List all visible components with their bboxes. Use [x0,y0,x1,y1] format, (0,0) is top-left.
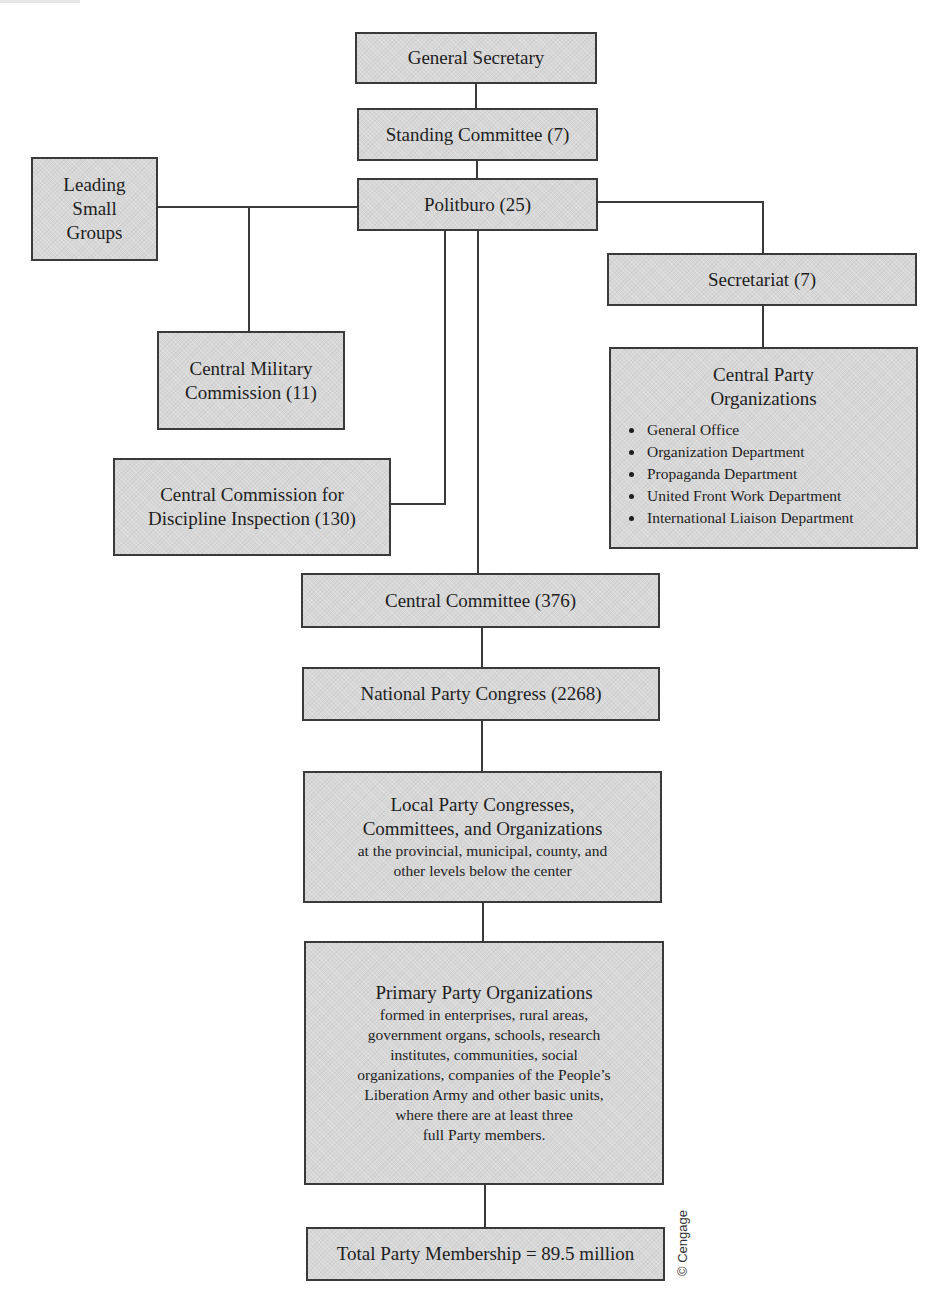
node-secretariat: Secretariat (7) [607,253,917,306]
node-label: Standing Committee (7) [386,123,570,147]
node-sublabel-line: organizations, companies of the People’s [357,1065,610,1085]
node-label-line: Central Party [713,363,814,387]
node-sublabel-line: Liberation Army and other basic units, [364,1085,603,1105]
node-total-membership: Total Party Membership = 89.5 million [306,1227,665,1281]
node-label-line: Committees, and Organizations [363,817,603,841]
node-label-line: Commission (11) [185,381,317,405]
department-item: Organization Department [627,441,854,463]
node-leading-small-groups: Leading Small Groups [31,157,158,261]
node-national-party-congress: National Party Congress (2268) [302,667,660,721]
department-item: Propaganda Department [627,463,854,485]
node-central-party-organizations: Central Party Organizations General Offi… [609,347,918,549]
node-label: Politburo (25) [424,193,531,217]
node-label-line: Central Commission for [160,483,344,507]
connector-politburo-secretariat-h [596,201,764,203]
department-item: General Office [627,419,854,441]
node-label: National Party Congress (2268) [360,682,601,706]
connector-politburo-ccdi-h [390,503,446,505]
node-sublabel-line: government organs, schools, research [368,1025,601,1045]
connector-cc-npc [481,626,483,668]
node-label: General Secretary [408,46,545,70]
connector-gensec-standing [475,83,477,109]
node-primary-party-organizations: Primary Party Organizations formed in en… [304,941,664,1185]
node-label: Total Party Membership = 89.5 million [337,1242,635,1266]
connector-npc-local [481,719,483,772]
connector-standing-politburo [476,160,478,179]
node-local-party: Local Party Congresses, Committees, and … [303,771,662,903]
connector-local-primary [482,901,484,942]
node-label-line: Discipline Inspection (130) [148,507,356,531]
connector-secretariat-cpo [762,305,764,348]
connector-politburo-ccdi-v [444,230,446,505]
node-label: Central Committee (376) [385,589,576,613]
node-sublabel-line: at the provincial, municipal, county, an… [358,841,608,861]
connector-politburo-secretariat-v [762,201,764,254]
node-label-line: Central Military [190,357,313,381]
node-label-line: Small [72,197,116,221]
node-politburo: Politburo (25) [357,178,598,231]
connector-politburo-central-committee [477,230,479,574]
node-label-line: Organizations [710,387,816,411]
connector-politburo-leading-groups [156,206,358,208]
node-general-secretary: General Secretary [355,32,597,84]
department-list: General Office Organization Department P… [611,419,854,529]
copyright-credit: © Cengage [675,1207,693,1279]
node-central-committee: Central Committee (376) [301,573,660,628]
node-label-line: Local Party Congresses, [390,793,574,817]
node-label-line: Groups [67,221,123,245]
node-label: Primary Party Organizations [375,981,592,1005]
node-ccdi: Central Commission for Discipline Inspec… [113,458,391,556]
node-label: Secretariat (7) [708,268,816,292]
node-sublabel-line: other levels below the center [393,861,571,881]
node-sublabel-line: institutes, communities, social [390,1045,578,1065]
connector-primary-total [484,1183,486,1228]
node-standing-committee: Standing Committee (7) [357,108,598,161]
node-central-military-commission: Central Military Commission (11) [157,331,345,430]
connector-to-cmc [248,207,250,332]
node-label-line: Leading [63,173,125,197]
node-sublabel-line: where there are at least three [395,1105,573,1125]
node-sublabel-line: formed in enterprises, rural areas, [380,1005,588,1025]
top-rule-decoration [0,0,80,3]
department-item: United Front Work Department [627,485,854,507]
department-item: International Liaison Department [627,507,854,529]
node-sublabel-line: full Party members. [423,1125,546,1145]
